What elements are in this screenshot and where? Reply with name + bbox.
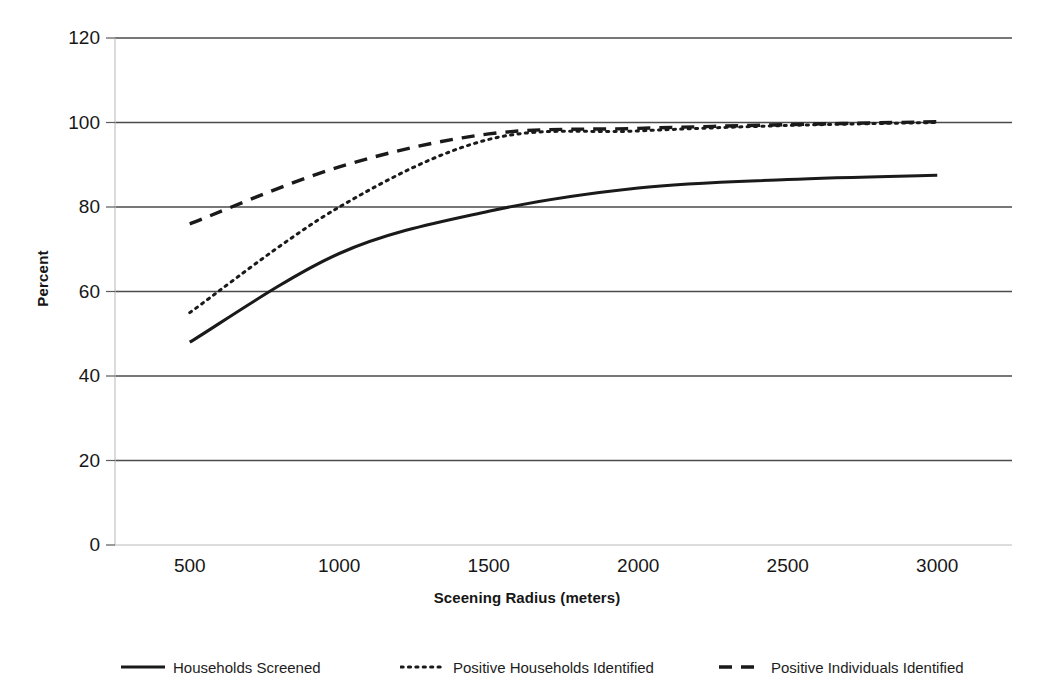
y-tick-label-40: 40	[48, 366, 100, 385]
legend-label-0: Households Screened	[173, 660, 321, 675]
x-tick-label-3000: 3000	[892, 556, 982, 575]
series-line-1	[190, 123, 938, 313]
y-tick-label-120: 120	[48, 28, 100, 47]
series-line-2	[190, 122, 938, 224]
y-tick-label-20: 20	[48, 451, 100, 470]
x-axis-tick-labels: 50010001500200025003000	[0, 556, 1054, 586]
x-tick-label-1000: 1000	[294, 556, 384, 575]
legend-line-dotted-icon	[400, 661, 446, 673]
legend-item-1[interactable]: Positive Households Identified	[400, 655, 654, 679]
y-tick-label-60: 60	[48, 282, 100, 301]
chart-legend: Households ScreenedPositive Households I…	[0, 655, 1054, 687]
legend-item-0[interactable]: Households Screened	[120, 655, 321, 679]
x-tick-label-2000: 2000	[593, 556, 683, 575]
legend-label-1: Positive Households Identified	[453, 660, 654, 675]
legend-line-solid-icon	[120, 661, 166, 673]
x-tick-label-500: 500	[145, 556, 235, 575]
x-tick-label-2500: 2500	[743, 556, 833, 575]
series-line-0	[190, 175, 938, 342]
x-tick-label-1500: 1500	[444, 556, 534, 575]
legend-label-2: Positive Individuals Identified	[771, 660, 964, 675]
chart-figure: Percent 020406080100120 5001000150020002…	[0, 0, 1054, 697]
legend-line-dashed-icon	[718, 661, 764, 673]
x-axis-title: Sceening Radius (meters)	[0, 589, 1054, 606]
legend-item-2[interactable]: Positive Individuals Identified	[718, 655, 964, 679]
y-tick-label-100: 100	[48, 113, 100, 132]
y-tick-label-0: 0	[48, 535, 100, 554]
y-tick-label-80: 80	[48, 197, 100, 216]
